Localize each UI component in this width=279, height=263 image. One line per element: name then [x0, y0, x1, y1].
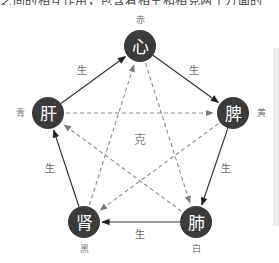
sheng-edge-kidney-to-liver [54, 130, 79, 207]
ke-edge-spleen-to-kidney [100, 124, 218, 211]
organ-node-liver: 肝青 [16, 97, 65, 129]
color-label: 黄 [257, 107, 266, 118]
organ-node-kidney: 肾黑 [68, 206, 100, 254]
ke-edge-kidney-to-heart [89, 65, 133, 205]
sheng-edge-label: 生 [221, 162, 231, 174]
color-label: 黑 [80, 244, 89, 254]
sheng-edge-heart-to-spleen [153, 55, 218, 102]
organ-label: 脾 [225, 104, 242, 124]
sheng-edge-label: 生 [77, 64, 87, 76]
organ-label: 心 [132, 37, 149, 57]
ke-center-label: 克 [134, 133, 146, 147]
organ-label: 肺 [188, 213, 205, 233]
five-organs-diagram: 生生生生生 克 心赤脾黄肺白肾黑肝青 [0, 0, 279, 263]
ke-edge-lung-to-liver [64, 125, 181, 211]
color-label: 赤 [136, 15, 145, 25]
organ-node-heart: 心赤 [124, 15, 156, 62]
color-label: 白 [192, 243, 201, 254]
color-label: 青 [16, 107, 25, 118]
sheng-edge-label: 生 [189, 64, 199, 76]
sheng-edge-label: 生 [45, 162, 55, 174]
sheng-edge-liver-to-heart [61, 57, 126, 104]
organ-node-spleen: 脾黄 [217, 97, 266, 129]
organ-label: 肾 [76, 213, 93, 233]
ke-edge-heart-to-lung [145, 63, 189, 203]
organ-label: 肝 [40, 104, 57, 124]
organ-node-lung: 肺白 [180, 206, 212, 254]
sheng-edge-label: 生 [135, 228, 145, 240]
